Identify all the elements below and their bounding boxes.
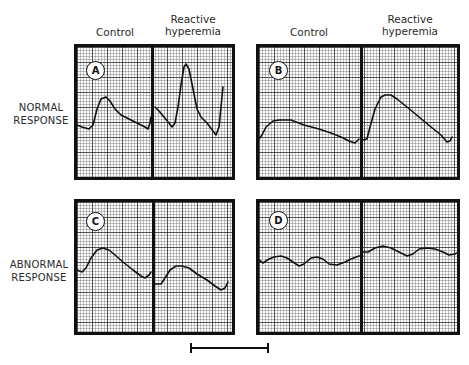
- header-control-right: Control: [285, 26, 333, 38]
- row-label-normal-line1: NORMAL: [12, 101, 70, 114]
- time-scale-bar: [190, 347, 269, 349]
- panel-b: B: [256, 44, 460, 180]
- trace-b: [259, 47, 457, 177]
- trace-d: [259, 202, 457, 332]
- panel-a: A: [74, 44, 235, 180]
- row-label-normal-line2: RESPONSE: [12, 114, 70, 127]
- trace-c-reactive: [155, 266, 228, 290]
- header-reactive-right-line2: hyperemia: [380, 25, 440, 37]
- row-label-normal: NORMAL RESPONSE: [12, 101, 70, 127]
- trace-a-reactive: [155, 64, 223, 135]
- header-reactive-left-line2: hyperemia: [163, 25, 223, 37]
- trace-c-control: [77, 248, 151, 278]
- trace-b-reactive: [363, 95, 452, 142]
- panel-c: C: [74, 199, 235, 335]
- header-reactive-right-line1: Reactive: [385, 13, 435, 25]
- trace-a: [77, 47, 232, 177]
- trace-c: [77, 202, 232, 332]
- trace-a-control: [77, 97, 151, 129]
- row-label-abnormal: ABNORMAL RESPONSE: [6, 258, 72, 284]
- header-reactive-left-line1: Reactive: [168, 13, 218, 25]
- trace-d-reactive: [363, 246, 459, 256]
- trace-d-control: [259, 256, 363, 266]
- header-control-left: Control: [91, 26, 139, 38]
- row-label-abnormal-line1: ABNORMAL: [6, 258, 72, 271]
- trace-b-control: [259, 120, 359, 143]
- row-label-abnormal-line2: RESPONSE: [6, 271, 72, 284]
- panel-d: D: [256, 199, 460, 335]
